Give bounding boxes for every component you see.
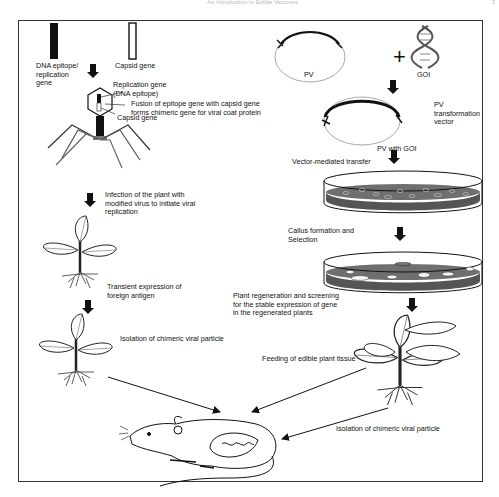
label-dna-epitope-gene: DNA epitope/ replication gene — [36, 62, 78, 88]
plus-sign: + — [393, 44, 406, 69]
label-vector-transfer: Vector-mediated transfer — [292, 158, 371, 167]
petri-dish-transfer-icon — [324, 171, 482, 213]
label-isolation-right: Isolation of chimeric viral particle — [336, 425, 440, 434]
arrow-feeding — [252, 368, 366, 412]
mouse-icon — [119, 416, 276, 486]
label-pv: PV — [304, 71, 314, 80]
label-transient-expression: Transient expression of foreign antigen — [107, 283, 181, 300]
capsid-gene-bar — [129, 23, 136, 59]
dna-epitope-gene-bar — [50, 23, 58, 59]
label-feeding: Feeding of edible plant tissue — [262, 355, 356, 364]
petri-dish-callus-icon — [324, 252, 482, 293]
pv-with-goi-plasmid-icon — [322, 97, 402, 145]
label-plant-regeneration: Plant regeneration and screening for the… — [233, 292, 339, 318]
label-pv-with-goi: PV with GOI — [377, 145, 417, 154]
label-callus-selection: Callus formation and Selection — [288, 227, 354, 244]
isolation-plant-icon — [39, 314, 112, 386]
label-replication-gene: Replication gene (DNA epitope) — [113, 81, 167, 98]
label-isolation-left: Isolation of chimeric viral particle — [120, 335, 224, 344]
label-infection: Infection of the plant with modified vir… — [105, 191, 195, 217]
infected-plant-icon — [43, 216, 116, 288]
arrow-isolation-left — [108, 377, 220, 412]
regenerated-plant-icon — [354, 315, 460, 405]
label-pv-transformation-vector: PV transformation vector — [434, 101, 480, 127]
label-goi: GOI — [417, 71, 430, 80]
label-capsid-gene-inner: Capsid gene — [117, 114, 157, 123]
label-capsid-gene: Capsid gene — [115, 62, 155, 71]
goi-dna-helix-icon — [412, 26, 439, 68]
